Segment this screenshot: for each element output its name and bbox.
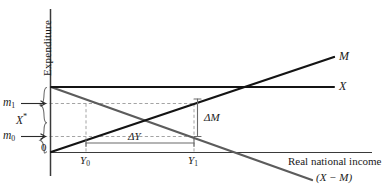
net-exports-line bbox=[51, 87, 312, 180]
x-star-label: X* bbox=[16, 113, 27, 126]
m0-label-subscript: 0 bbox=[11, 134, 15, 143]
y1-tick-label-subscript: 1 bbox=[194, 159, 198, 168]
axes bbox=[51, 9, 373, 176]
origin-label: 0 bbox=[41, 142, 47, 153]
m0-label: m0 bbox=[3, 130, 15, 143]
y-axis-title: Expenditure bbox=[41, 20, 53, 76]
exports-curve-label: X bbox=[339, 80, 346, 92]
expenditure-national-income-diagram: Expenditure 0 m1 m0 X* Y0 Y1 ΔM ΔY M X (… bbox=[0, 0, 391, 196]
net-exports-curve-label: (X − M) bbox=[316, 172, 352, 183]
m1-label: m1 bbox=[3, 97, 15, 110]
y0-tick-label-subscript: 0 bbox=[86, 159, 90, 168]
x-star-label-superscript: * bbox=[23, 112, 27, 121]
x-star-label-base: X bbox=[16, 114, 23, 126]
x-axis-title: Real national income bbox=[288, 156, 381, 167]
delta-y-label: ΔY bbox=[128, 131, 141, 142]
imports-curve-label: M bbox=[339, 50, 349, 62]
y0-tick-label: Y0 bbox=[80, 155, 90, 167]
delta-m-label: ΔM bbox=[204, 112, 220, 123]
y1-tick-label: Y1 bbox=[188, 155, 198, 167]
m1-label-subscript: 1 bbox=[11, 101, 15, 110]
